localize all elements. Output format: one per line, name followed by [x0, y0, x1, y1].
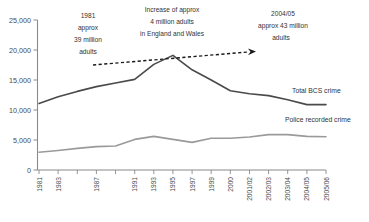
annotation-line: 4 million adults: [150, 18, 194, 25]
x-tick-label: 1987: [93, 177, 100, 192]
x-tick-label: 1997: [189, 177, 196, 192]
x-tick-label: 1981: [36, 177, 43, 192]
annotation-line: approx 43 million: [258, 22, 308, 30]
annotation-line: 1981: [81, 12, 96, 19]
x-tick-label: 2005/06: [323, 177, 330, 201]
x-tick-label: 1991: [131, 177, 138, 192]
x-tick-label: 1983: [55, 177, 62, 192]
annotation-line: adults: [79, 48, 97, 55]
x-tick-label: 1999: [208, 177, 215, 192]
annotation-line: approx: [78, 24, 99, 32]
x-tick-label: 1993: [150, 177, 157, 192]
x-tick-label: 2000: [227, 177, 234, 192]
annotation-line: 39 million: [74, 36, 102, 43]
x-tick-label: 2003/04: [284, 177, 291, 201]
annotation-line: 2004/05: [271, 10, 295, 17]
x-tick-label: 2001/02: [246, 177, 253, 201]
annotation-line: in England and Wales: [140, 30, 205, 38]
y-tick-label: 20,000: [9, 46, 31, 55]
annotation-line: Increase of approx: [145, 6, 200, 14]
x-tick-label: 1995: [169, 177, 176, 192]
x-tick-label: 2002/03: [265, 177, 272, 201]
y-tick-label: 0: [27, 166, 31, 175]
crime-trend-chart: 0 5,000 10,000 15,000 20,000 25,000: [0, 0, 369, 222]
annotation-line: adults: [272, 34, 290, 41]
y-tick-label: 10,000: [9, 106, 31, 115]
x-tick-label: 2004/05: [303, 177, 310, 201]
y-tick-label: 15,000: [9, 76, 31, 85]
y-tick-label: 25,000: [9, 16, 31, 25]
chart-svg: 0 5,000 10,000 15,000 20,000 25,000: [0, 0, 369, 222]
legend-label-total-bcs-crime: Total BCS crime: [292, 87, 341, 94]
y-tick-label: 5,000: [13, 136, 31, 145]
legend-label-police-recorded-crime: Police recorded crime: [285, 116, 351, 123]
